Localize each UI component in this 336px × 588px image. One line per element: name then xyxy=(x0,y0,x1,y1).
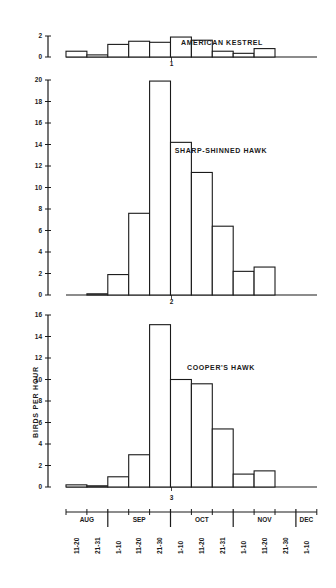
month-label: DEC xyxy=(299,516,313,523)
bar xyxy=(254,267,275,295)
birds-per-hour-figure: 02AMERICAN KESTREL1 02468101214161820SHA… xyxy=(0,0,336,588)
bar xyxy=(150,325,171,487)
period-label: 11-20 xyxy=(261,537,268,554)
y-tick-label: 12 xyxy=(35,162,43,169)
period-label: 21-31 xyxy=(94,537,101,554)
period-label: 1-10 xyxy=(303,541,310,554)
bar xyxy=(233,271,254,295)
y-tick-label: 0 xyxy=(38,291,42,298)
month-label: AUG xyxy=(80,516,94,523)
bar xyxy=(108,44,129,57)
bar xyxy=(171,142,192,295)
y-tick-label: 14 xyxy=(35,141,43,148)
y-tick-label: 4 xyxy=(38,248,42,255)
period-label: 1-10 xyxy=(115,541,122,554)
period-label: 1-10 xyxy=(177,541,184,554)
bar xyxy=(212,51,233,57)
bar xyxy=(66,51,87,57)
panel-sharp-shinned-hawk: 02468101214161820SHARP-SHINNED HAWK2 xyxy=(35,76,317,305)
y-tick-label: 10 xyxy=(35,184,43,191)
bar xyxy=(233,53,254,57)
period-label: 11-20 xyxy=(135,537,142,554)
bar xyxy=(212,429,233,487)
panel-index-label: 1 xyxy=(170,60,174,67)
period-label: 1-10 xyxy=(240,541,247,554)
period-label: 21-30 xyxy=(282,537,289,554)
month-label: NOV xyxy=(258,516,273,523)
period-label: 21-31 xyxy=(219,537,226,554)
bar xyxy=(191,172,212,295)
y-tick-label: 0 xyxy=(38,53,42,60)
panel-title: COOPER'S HAWK xyxy=(187,364,255,371)
y-tick-label: 16 xyxy=(35,311,43,318)
month-label: OCT xyxy=(195,516,209,523)
panel-coopers-hawk: 0246810121416COOPER'S HAWK3 xyxy=(35,311,317,501)
bar xyxy=(171,380,192,488)
y-tick-label: 2 xyxy=(38,32,42,39)
y-tick-label: 20 xyxy=(35,76,43,83)
y-tick-label: 16 xyxy=(35,119,43,126)
panel-american-kestrel: 02AMERICAN KESTREL1 xyxy=(38,32,317,67)
bar xyxy=(191,384,212,487)
bar xyxy=(150,42,171,57)
period-label: 11-20 xyxy=(73,537,80,554)
panel-title: AMERICAN KESTREL xyxy=(181,39,263,46)
chart-canvas: 02AMERICAN KESTREL1 02468101214161820SHA… xyxy=(0,0,336,588)
y-tick-label: 2 xyxy=(38,462,42,469)
y-tick-label: 4 xyxy=(38,440,42,447)
month-label: SEP xyxy=(133,516,147,523)
y-axis-title: BIRDS PER HOUR xyxy=(32,366,39,438)
x-axis-timeline: AUGSEPOCTNOVDEC11-2021-311-1011-2021-301… xyxy=(66,509,317,554)
bar xyxy=(66,485,87,487)
y-tick-label: 6 xyxy=(38,227,42,234)
bar xyxy=(108,275,129,295)
period-label: 21-30 xyxy=(156,537,163,554)
panel-title: SHARP-SHINNED HAWK xyxy=(175,147,267,154)
bar xyxy=(254,49,275,57)
bar xyxy=(87,294,108,295)
panel-index-label: 2 xyxy=(170,298,174,305)
y-tick-label: 12 xyxy=(35,354,43,361)
bar xyxy=(129,213,150,295)
y-tick-label: 2 xyxy=(38,270,42,277)
bar xyxy=(233,474,254,487)
bar xyxy=(150,81,171,295)
bar xyxy=(87,55,108,57)
y-tick-label: 18 xyxy=(35,98,43,105)
period-label: 11-20 xyxy=(198,537,205,554)
y-axis-title-text: BIRDS PER HOUR xyxy=(32,366,39,438)
panel-index-label: 3 xyxy=(170,494,174,501)
bar xyxy=(129,41,150,57)
bar xyxy=(212,226,233,295)
y-tick-label: 0 xyxy=(38,483,42,490)
bar xyxy=(254,471,275,487)
y-tick-label: 8 xyxy=(38,205,42,212)
y-tick-label: 14 xyxy=(35,333,43,340)
bar xyxy=(129,455,150,487)
bar xyxy=(87,486,108,487)
bar xyxy=(108,477,129,487)
